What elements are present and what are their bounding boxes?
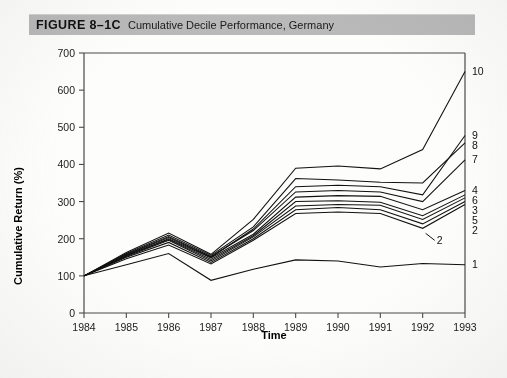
x-tick-label: 1985	[115, 321, 139, 333]
figure-caption-banner: FIGURE 8–1C Cumulative Decile Performanc…	[29, 14, 475, 35]
x-tick-label: 1986	[157, 321, 181, 333]
y-tick-label: 300	[57, 196, 75, 208]
y-tick-label: 0	[69, 307, 75, 319]
series-line-6	[84, 195, 465, 276]
series-lines	[84, 72, 465, 281]
annotation-leader-line	[426, 233, 435, 240]
chart-container: 0100200300400500600700 19841985198619871…	[0, 36, 507, 378]
x-tick-label: 1990	[326, 321, 350, 333]
annotation-label-2: 2	[437, 234, 443, 246]
y-tick-label: 200	[57, 233, 75, 245]
chart-annotations: 2	[426, 233, 443, 246]
x-axis-title: Time	[261, 329, 286, 341]
x-tick-label: 1987	[199, 321, 223, 333]
x-tick-label: 1992	[411, 321, 435, 333]
line-chart: 0100200300400500600700 19841985198619871…	[0, 36, 507, 378]
y-axis-ticks: 0100200300400500600700	[57, 47, 84, 319]
series-line-10	[84, 72, 465, 276]
x-tick-label: 1984	[72, 321, 96, 333]
series-end-labels: 10987463521	[472, 65, 484, 270]
y-tick-label: 400	[57, 158, 75, 170]
figure-title: Cumulative Decile Performance, Germany	[128, 19, 334, 31]
y-axis-title: Cumulative Return (%)	[12, 167, 24, 285]
x-tick-label: 1993	[453, 321, 477, 333]
x-tick-label: 1991	[369, 321, 393, 333]
y-tick-label: 700	[57, 47, 75, 59]
series-line-1	[84, 254, 465, 281]
figure-page: FIGURE 8–1C Cumulative Decile Performanc…	[0, 0, 507, 378]
y-tick-label: 100	[57, 270, 75, 282]
y-tick-label: 500	[57, 121, 75, 133]
series-end-label-10: 10	[472, 65, 484, 77]
series-line-7	[84, 160, 465, 276]
y-tick-label: 600	[57, 84, 75, 96]
x-tick-label: 1989	[284, 321, 308, 333]
figure-number: FIGURE 8–1C	[36, 18, 121, 32]
series-end-label-2: 2	[472, 224, 478, 236]
series-end-label-1: 1	[472, 258, 478, 270]
series-line-8	[84, 143, 465, 276]
series-end-label-8: 8	[472, 139, 478, 151]
series-end-label-7: 7	[472, 153, 478, 165]
